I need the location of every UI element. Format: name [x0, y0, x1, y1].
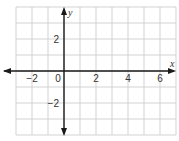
x-tick-label: 0 [55, 73, 61, 84]
x-tick-label: 6 [157, 73, 163, 84]
x-tick-label: 2 [93, 73, 99, 84]
y-tick-label: 2 [53, 34, 59, 45]
y-tick-label: −2 [48, 98, 60, 109]
x-axis-label: x [169, 58, 175, 69]
coordinate-plane: −202462−2xy [0, 0, 179, 141]
y-axis-arrow-up [61, 7, 67, 15]
x-axis-arrow-left [3, 68, 11, 74]
x-tick-label: 4 [125, 73, 131, 84]
tick-labels: −202462−2xy [26, 7, 175, 109]
axes [3, 7, 176, 136]
y-axis-label: y [67, 7, 73, 18]
x-tick-label: −2 [26, 73, 38, 84]
